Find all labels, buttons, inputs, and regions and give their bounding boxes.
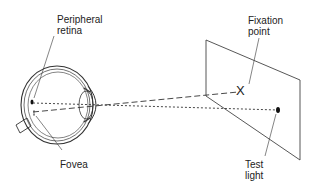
test-screen	[206, 40, 300, 160]
label-fixation-point-line2: point	[248, 26, 283, 37]
label-test-light-line2: light	[245, 170, 263, 181]
label-peripheral-retina-line2: retina	[57, 25, 103, 36]
leader-fixation-point	[249, 38, 259, 84]
label-peripheral-retina: Peripheral retina	[57, 14, 103, 36]
label-test-light: Test light	[245, 159, 263, 181]
label-test-light-line1: Test	[245, 159, 263, 170]
label-peripheral-retina-line1: Peripheral	[57, 14, 103, 25]
label-fixation-point-line1: Fixation	[248, 15, 283, 26]
test-light-line	[33, 103, 278, 110]
label-fixation-point: Fixation point	[248, 15, 283, 37]
test-light-dot	[276, 107, 280, 113]
leader-fovea	[36, 116, 62, 150]
fovea-spot	[31, 100, 34, 105]
leader-test-light	[265, 114, 276, 156]
eye	[16, 66, 96, 144]
fixation-line	[33, 92, 238, 112]
fixation-mark: X	[236, 85, 245, 96]
label-fovea: Fovea	[60, 159, 88, 170]
